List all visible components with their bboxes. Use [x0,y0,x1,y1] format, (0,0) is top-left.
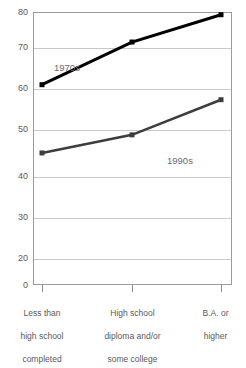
x-axis-label-line1: B.A. or [188,308,243,320]
x-axis-label-line2: high school [6,331,78,343]
series-annotation-1990s: 1990s [167,155,193,166]
x-axis-label-line1: Less than [6,308,78,320]
y-axis-label-80: 80 [2,8,28,17]
gridline-50 [34,130,231,131]
chart-title-fragment [16,0,216,3]
x-axis-label-line1: High school [88,308,177,320]
y-axis-label-0: 0 [2,281,28,290]
gridline-40 [34,177,231,178]
x-axis-tick-1 [42,285,43,292]
y-axis-label-60: 60 [2,84,28,93]
y-axis-label-50: 50 [2,125,28,134]
x-axis-label-line3: completed [6,354,78,366]
y-axis-label-20: 20 [2,254,28,263]
y-axis-label-40: 40 [2,172,28,181]
x-axis-label-line2: diploma and/or [88,331,177,343]
y-axis-label-30: 30 [2,213,28,222]
gridline-20 [34,259,231,260]
gridline-30 [34,218,231,219]
x-axis-tick-3 [221,285,222,292]
x-axis-label-high-school-diploma: High school diploma and/or some college [88,296,177,368]
gridline-60 [34,89,231,90]
x-axis-label-line3: some college [88,354,177,366]
x-axis-tick-2 [132,285,133,292]
x-axis-label-ba-or-higher: B.A. or higher [188,296,243,365]
series-annotation-1970s: 1970s [54,62,80,73]
x-axis-label-line2: higher [188,331,243,343]
y-axis-label-70: 70 [2,43,28,52]
x-axis-label-less-than-high-school: Less than high school completed [6,296,78,368]
plot-area [33,12,232,285]
gridline-70 [34,48,231,49]
